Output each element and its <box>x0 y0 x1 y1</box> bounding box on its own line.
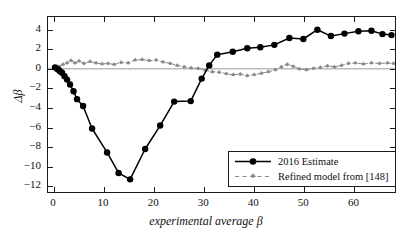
x-tick-mark <box>204 17 205 22</box>
legend-swatch-dashed-marker <box>233 171 273 182</box>
data-point-marker <box>339 63 344 67</box>
data-point-marker <box>67 81 73 87</box>
legend-item-series-1: 2016 Estimate <box>233 155 389 168</box>
chart-legend: 2016 Estimate Refined model from [148] <box>228 151 396 187</box>
data-point-marker <box>346 61 351 65</box>
y-tick-mark <box>48 49 53 50</box>
y-tick-mark <box>48 30 53 31</box>
x-tick-label: 10 <box>83 197 123 208</box>
legend-swatch-solid-circle <box>233 156 273 167</box>
legend-label-series-1: 2016 Estimate <box>278 156 338 167</box>
y-tick-label: 4 <box>0 23 41 34</box>
data-point-marker <box>214 51 220 57</box>
y-tick-mark <box>390 128 395 129</box>
data-point-marker <box>291 64 296 68</box>
data-point-marker <box>106 61 111 65</box>
data-point-marker <box>224 72 229 76</box>
y-tick-mark <box>390 147 395 148</box>
data-point-marker <box>311 66 316 70</box>
x-tick-mark <box>54 17 55 22</box>
x-tick-mark <box>104 187 105 192</box>
y-tick-mark <box>48 186 53 187</box>
data-point-marker <box>206 62 212 68</box>
data-point-marker <box>244 45 250 51</box>
y-tick-mark <box>390 69 395 70</box>
x-tick-label: 60 <box>333 197 373 208</box>
legend-label-series-2: Refined model from [148] <box>278 171 389 182</box>
data-point-marker <box>355 28 361 34</box>
data-point-marker <box>379 31 385 37</box>
data-point-marker <box>104 149 110 155</box>
data-point-marker <box>341 30 347 36</box>
data-point-marker <box>168 61 173 65</box>
data-point-marker <box>112 62 117 66</box>
data-point-marker <box>142 146 148 152</box>
data-point-marker <box>70 88 76 94</box>
data-point-marker <box>89 125 95 131</box>
y-tick-mark <box>48 147 53 148</box>
data-point-marker <box>199 75 205 81</box>
x-tick-mark <box>204 187 205 192</box>
y-tick-label: 0 <box>0 62 41 73</box>
data-point-marker <box>126 61 131 65</box>
data-point-marker <box>74 96 80 102</box>
data-point-marker <box>210 70 215 74</box>
data-point-marker <box>88 59 93 63</box>
data-point-marker <box>196 66 201 70</box>
x-axis-label: experimental average β <box>0 214 412 229</box>
data-point-marker <box>157 122 163 128</box>
data-point-marker <box>100 62 105 66</box>
data-point-marker <box>94 61 99 65</box>
data-point-marker <box>115 170 121 176</box>
y-tick-mark <box>390 108 395 109</box>
x-tick-label: 50 <box>283 197 323 208</box>
y-tick-label: −6 <box>0 121 41 132</box>
x-tick-label: 20 <box>133 197 173 208</box>
x-tick-label: 30 <box>183 197 223 208</box>
x-tick-mark <box>254 187 255 192</box>
x-tick-label: 0 <box>33 197 73 208</box>
data-point-marker <box>259 71 264 75</box>
x-tick-mark <box>104 17 105 22</box>
data-point-marker <box>325 64 330 68</box>
data-point-marker <box>82 61 87 65</box>
data-point-marker <box>231 73 236 77</box>
data-point-marker <box>175 63 180 67</box>
y-tick-label: −12 <box>0 179 41 190</box>
y-tick-mark <box>48 108 53 109</box>
data-point-marker <box>171 98 177 104</box>
data-point-marker <box>217 70 222 74</box>
x-tick-mark <box>354 187 355 192</box>
y-tick-mark <box>390 49 395 50</box>
data-point-marker <box>385 61 390 65</box>
data-point-marker <box>271 42 277 48</box>
y-tick-label: −4 <box>0 101 41 112</box>
series-2-group <box>53 57 395 77</box>
figure-container: Δβ experimental average β 420−2−4−6−8−10… <box>0 0 412 234</box>
data-point-marker <box>388 32 394 38</box>
data-point-marker <box>361 62 366 66</box>
y-tick-mark <box>48 88 53 89</box>
x-tick-mark <box>54 187 55 192</box>
data-point-marker <box>119 60 124 64</box>
y-tick-mark <box>48 69 53 70</box>
y-tick-label: −10 <box>0 160 41 171</box>
data-point-marker <box>304 68 309 72</box>
x-tick-label: 40 <box>233 197 273 208</box>
data-point-marker <box>368 27 374 33</box>
data-point-marker <box>266 70 271 74</box>
data-point-marker <box>238 72 243 76</box>
data-point-marker <box>297 67 302 71</box>
y-tick-mark <box>48 167 53 168</box>
data-point-marker <box>369 61 374 65</box>
x-tick-mark <box>304 17 305 22</box>
data-point-marker <box>314 27 320 33</box>
y-tick-label: −8 <box>0 140 41 151</box>
data-point-marker <box>140 57 145 61</box>
data-point-marker <box>252 73 257 77</box>
y-tick-mark <box>390 88 395 89</box>
data-point-marker <box>332 65 337 69</box>
legend-item-series-2: Refined model from [148] <box>233 170 389 183</box>
data-point-marker <box>182 65 187 69</box>
data-point-marker <box>230 49 236 55</box>
